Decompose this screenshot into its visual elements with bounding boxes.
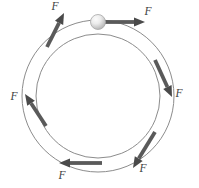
ball-body <box>91 15 106 30</box>
force-arrow-bottom-right-label: F <box>138 162 147 174</box>
force-arrow-top-left <box>45 13 64 48</box>
force-diagram-figure: FFFFFF <box>0 0 199 188</box>
arrow-head-icon <box>59 158 70 167</box>
arrow-shaft <box>104 20 134 24</box>
force-arrow-layer <box>25 13 172 168</box>
force-arrow-top-right-label: F <box>143 5 152 17</box>
arrow-head-icon <box>134 17 145 26</box>
force-arrow-bottom-label: F <box>57 169 66 181</box>
circular-track-diagram: FFFFFF <box>0 0 199 188</box>
inner-circle <box>36 34 160 158</box>
force-arrow-left-label: F <box>9 90 18 102</box>
force-arrow-top-left-label: F <box>50 0 59 12</box>
arrow-shaft <box>70 161 102 165</box>
arrow-shaft <box>137 131 157 160</box>
force-arrow-right <box>153 59 172 97</box>
force-arrow-bottom <box>59 158 102 167</box>
ball <box>91 15 106 30</box>
arrow-shaft <box>29 102 47 127</box>
circular-track <box>22 20 174 172</box>
outer-circle <box>22 20 174 172</box>
force-arrow-right-label: F <box>174 87 183 99</box>
arrow-shaft <box>45 22 60 48</box>
